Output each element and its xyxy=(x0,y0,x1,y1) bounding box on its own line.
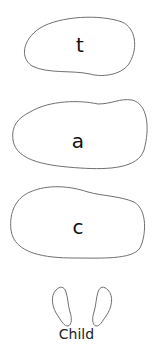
footer-label: Child xyxy=(0,326,153,342)
card-letter-3: c xyxy=(73,217,84,237)
card-letter-1: t xyxy=(76,35,84,55)
footprints-icon xyxy=(52,287,111,326)
card-letter-2: a xyxy=(72,131,84,151)
